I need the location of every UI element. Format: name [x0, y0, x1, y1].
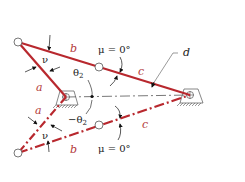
- left-ground-pivot: [53, 91, 78, 108]
- top-label-b: b: [70, 42, 77, 55]
- top-pin-bc: [95, 63, 103, 71]
- bottom-pin-ab: [14, 149, 22, 157]
- top-label-nu: ν: [42, 54, 48, 65]
- top-label-mu: μ = 0°: [98, 44, 131, 55]
- top-label-c: c: [138, 65, 144, 78]
- bottom-configuration: a b c ν −θ2 μ = 0°: [14, 95, 190, 157]
- top-label-d: d: [183, 46, 190, 59]
- bottom-label-a: a: [35, 104, 42, 117]
- bottom-label-theta: −θ2: [68, 114, 87, 127]
- bottom-label-b: b: [70, 143, 77, 156]
- top-configuration: a b c d ν θ2 μ = 0°: [14, 35, 190, 97]
- top-pin-ab: [14, 38, 22, 46]
- bottom-label-nu: ν: [42, 130, 48, 141]
- bottom-pin-bc: [95, 121, 103, 129]
- ground-centerline: [66, 95, 190, 97]
- top-label-a: a: [36, 81, 43, 94]
- top-label-theta: θ2: [73, 67, 84, 80]
- bottom-label-mu: μ = 0°: [98, 143, 131, 154]
- fourbar-diagram: a b c d ν θ2 μ = 0° a b c ν −θ2 μ = 0°: [0, 0, 245, 182]
- bottom-label-c: c: [142, 118, 148, 131]
